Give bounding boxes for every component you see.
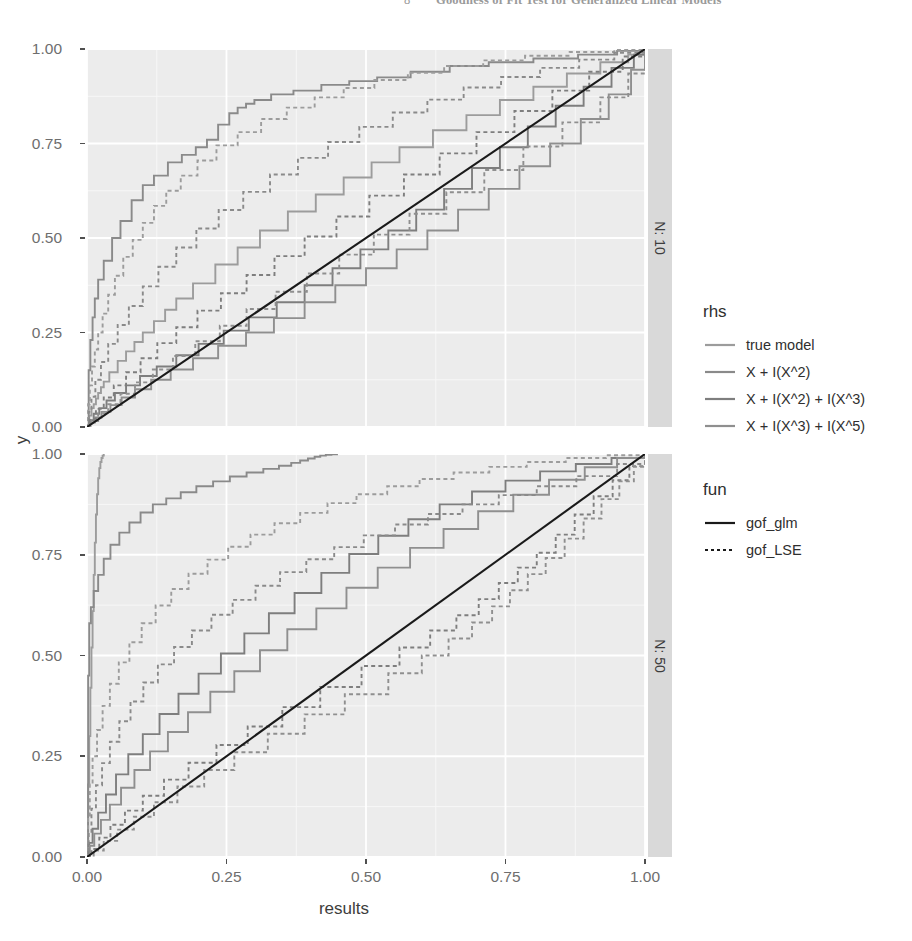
facet-strip-N-10: N: 10	[648, 49, 672, 427]
y-tick-mark	[80, 453, 85, 455]
y-tick-label: 0.50	[0, 230, 62, 246]
legend-fun-label: gof_LSE	[746, 542, 802, 558]
legend-fun-item[interactable]: gof_glm	[703, 509, 802, 536]
legend-fun-title: fun	[703, 480, 802, 500]
y-axis-title: y	[12, 436, 32, 445]
legend-rhs-key-icon	[703, 390, 737, 407]
legend-fun: fun gof_glmgof_LSE	[703, 480, 802, 563]
y-tick-mark	[80, 655, 85, 657]
x-tick-mark	[644, 859, 646, 864]
y-tick-mark	[80, 856, 85, 858]
legend-rhs-key-icon	[703, 363, 737, 380]
x-tick-label: 0.50	[336, 869, 396, 885]
legend-fun-key-icon	[703, 514, 737, 531]
legend-rhs: rhs true modelX + I(X^2)X + I(X^2) + I(X…	[703, 302, 865, 439]
legend-fun-key-icon	[703, 541, 737, 558]
y-tick-label: 1.00	[0, 41, 62, 57]
legend-rhs-label: X + I(X^2) + I(X^3)	[746, 391, 865, 407]
legend-rhs-item[interactable]: X + I(X^3) + I(X^5)	[703, 412, 865, 439]
y-tick-label: 0.50	[0, 648, 62, 664]
ecdf-facet-chart: y results 0.000.250.500.751.000.000.250.…	[0, 0, 912, 941]
y-tick-mark	[80, 554, 85, 556]
y-tick-label: 0.25	[0, 748, 62, 764]
legend-rhs-key-icon	[703, 417, 737, 434]
x-tick-label: 0.25	[197, 869, 257, 885]
panel-N-10	[87, 49, 645, 427]
y-tick-label: 0.00	[0, 419, 62, 435]
x-axis-title: results	[0, 899, 688, 919]
facet-strip-label: N: 10	[652, 221, 668, 254]
y-tick-label: 1.00	[0, 446, 62, 462]
x-tick-mark	[226, 859, 228, 864]
x-tick-label: 0.75	[476, 869, 536, 885]
legend-rhs-title: rhs	[703, 302, 865, 322]
facet-strip-N-50: N: 50	[648, 454, 672, 857]
legend-rhs-label: true model	[746, 337, 815, 353]
panel-N-50	[87, 454, 645, 857]
facet-strip-label: N: 50	[652, 639, 668, 672]
y-tick-mark	[80, 48, 85, 50]
legend-rhs-item[interactable]: X + I(X^2)	[703, 358, 865, 385]
x-tick-label: 1.00	[615, 869, 675, 885]
legend-fun-entries: gof_glmgof_LSE	[703, 509, 802, 563]
x-tick-label: 0.00	[57, 869, 117, 885]
y-tick-label: 0.75	[0, 136, 62, 152]
y-tick-mark	[80, 237, 85, 239]
legend-rhs-key-icon	[703, 336, 737, 353]
panel-plot-area	[87, 49, 645, 427]
panel-plot-area	[87, 454, 645, 857]
y-tick-label: 0.00	[0, 849, 62, 865]
y-tick-mark	[80, 143, 85, 145]
legend-rhs-entries: true modelX + I(X^2)X + I(X^2) + I(X^3)X…	[703, 331, 865, 439]
legend-fun-label: gof_glm	[746, 515, 798, 531]
y-tick-mark	[80, 332, 85, 334]
y-tick-label: 0.75	[0, 547, 62, 563]
y-tick-mark	[80, 426, 85, 428]
x-tick-mark	[365, 859, 367, 864]
x-tick-mark	[86, 859, 88, 864]
legend-rhs-item[interactable]: X + I(X^2) + I(X^3)	[703, 385, 865, 412]
legend-rhs-label: X + I(X^3) + I(X^5)	[746, 418, 865, 434]
legend-rhs-label: X + I(X^2)	[746, 364, 810, 380]
y-tick-label: 0.25	[0, 325, 62, 341]
legend-rhs-item[interactable]: true model	[703, 331, 865, 358]
legend-fun-item[interactable]: gof_LSE	[703, 536, 802, 563]
x-tick-mark	[505, 859, 507, 864]
y-tick-mark	[80, 755, 85, 757]
